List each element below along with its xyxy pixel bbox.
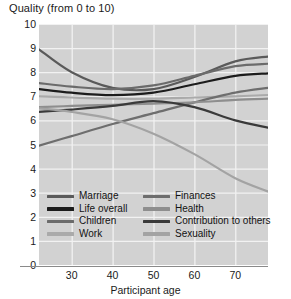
x-axis-tick-label: 40 — [107, 269, 119, 281]
legend-label: Marriage — [79, 191, 118, 201]
x-axis-line — [20, 266, 268, 267]
legend-item[interactable]: Contribution to others — [143, 215, 271, 228]
x-axis-tick-label: 60 — [189, 269, 201, 281]
x-axis-tick-labels: 3040506070 — [0, 269, 291, 283]
legend-swatch-icon — [143, 207, 170, 211]
legend-label: Health — [175, 204, 204, 214]
legend-item[interactable]: Life overall — [47, 203, 143, 216]
legend-swatch-icon — [143, 195, 170, 199]
y-axis-tick-label: 7 — [0, 91, 36, 101]
legend-item[interactable]: Work — [47, 228, 143, 241]
x-axis-tick-label: 70 — [229, 269, 241, 281]
legend-label: Work — [79, 229, 102, 239]
legend-item[interactable]: Marriage — [47, 190, 143, 203]
legend-label: Sexuality — [175, 229, 216, 239]
y-axis-tick-label: 6 — [0, 115, 36, 125]
y-axis-tick-label: 1 — [0, 236, 36, 246]
chart-root: Quality (from 0 to 10) 012345678910 3040… — [0, 0, 291, 299]
y-axis-tick-label: 8 — [0, 67, 36, 77]
legend-swatch-icon — [143, 232, 170, 236]
y-axis-tick-label: 2 — [0, 212, 36, 222]
legend-swatch-icon — [47, 232, 74, 236]
x-axis-tick-label: 30 — [66, 269, 78, 281]
legend-item[interactable]: Finances — [143, 190, 271, 203]
legend-label: Contribution to others — [175, 216, 271, 226]
legend-item[interactable]: Children — [47, 215, 143, 228]
legend-swatch-icon — [47, 220, 74, 224]
x-axis-tick-label: 50 — [148, 269, 160, 281]
chart-legend: MarriageFinancesLife overallHealthChildr… — [47, 190, 268, 240]
y-axis-tick-label: 3 — [0, 188, 36, 198]
legend-label: Finances — [175, 191, 216, 201]
legend-swatch-icon — [47, 195, 74, 199]
legend-swatch-icon — [143, 220, 170, 224]
legend-label: Life overall — [79, 204, 127, 214]
legend-item[interactable]: Sexuality — [143, 228, 271, 241]
legend-swatch-icon — [47, 207, 74, 211]
x-axis-title: Participant age — [0, 284, 291, 296]
y-axis-tick-label: 4 — [0, 164, 36, 174]
y-axis-tick-label: 9 — [0, 43, 36, 53]
legend-item[interactable]: Health — [143, 203, 271, 216]
y-axis-tick-label: 10 — [0, 19, 36, 29]
legend-label: Children — [79, 216, 116, 226]
y-axis-tick-label: 5 — [0, 140, 36, 150]
y-axis-tick-labels: 012345678910 — [0, 0, 36, 299]
